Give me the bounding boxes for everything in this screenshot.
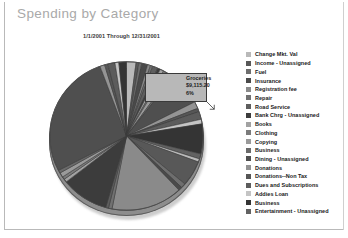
legend-swatch-icon (246, 52, 251, 57)
legend-item-label: Registration fee (255, 86, 297, 92)
legend-item[interactable]: Donations (246, 163, 346, 172)
legend-item-label: Business (255, 147, 280, 153)
legend-item-label: Fuel (255, 69, 266, 75)
legend-item[interactable]: Repair (246, 94, 346, 103)
tooltip-category: Groceries (186, 75, 211, 82)
legend-item-label: Road Service (255, 104, 290, 110)
callout-leader-line (206, 101, 215, 110)
tooltip-amount: $9,115.20 (186, 82, 211, 89)
legend-swatch-icon (246, 156, 251, 161)
legend-item-label: Repair (255, 95, 272, 101)
legend-swatch-icon (246, 87, 251, 92)
report-page: Spending by Category 1/1/2001 Through 12… (0, 0, 348, 238)
page-border-bottom (4, 229, 343, 230)
legend-item-label: Bank Chrg - Unassigned (255, 112, 319, 118)
legend-item-label: Donations--Non Tax (255, 173, 307, 179)
page-title: Spending by Category (17, 6, 159, 21)
legend-swatch-icon (246, 139, 251, 144)
report-date-range: 1/1/2001 Through 12/31/2001 (83, 33, 160, 39)
legend-item-label: Dining - Unassigned (255, 156, 309, 162)
legend-item[interactable]: Books (246, 120, 346, 129)
legend-swatch-icon (246, 165, 251, 170)
legend-item-label: Dues and Subscriptions (255, 182, 318, 188)
legend-swatch-icon (246, 174, 251, 179)
legend-swatch-icon (246, 78, 251, 83)
legend-item[interactable]: Registration fee (246, 85, 346, 94)
legend-swatch-icon (246, 95, 251, 100)
legend-swatch-icon (246, 61, 251, 66)
legend-item-label: Books (255, 121, 272, 127)
legend-item-label: Addies Loan (255, 191, 288, 197)
legend-swatch-icon (246, 130, 251, 135)
legend-item[interactable]: Dining - Unassigned (246, 155, 346, 164)
legend-swatch-icon (246, 200, 251, 205)
legend-swatch-icon (246, 209, 251, 214)
legend-swatch-icon (246, 191, 251, 196)
legend-swatch-icon (246, 69, 251, 74)
legend-swatch-icon (246, 183, 251, 188)
page-border-left (4, 2, 5, 230)
legend-swatch-icon (246, 148, 251, 153)
legend-item[interactable]: Addies Loan (246, 190, 346, 199)
legend-item-label: Entertainment - Unassigned (255, 208, 329, 214)
legend-swatch-icon (246, 104, 251, 109)
slice-tooltip-content: Groceries $9,115.20 6% (186, 75, 211, 97)
legend-item[interactable]: Road Service (246, 102, 346, 111)
chart-legend: Change Mkt. ValIncome - UnassignedFuelIn… (246, 50, 346, 216)
legend-item-label: Income - Unassigned (255, 60, 311, 66)
legend-item[interactable]: Insurance (246, 76, 346, 85)
tooltip-percent: 6% (186, 90, 211, 97)
legend-item[interactable]: Income - Unassigned (246, 59, 346, 68)
legend-item-label: Change Mkt. Val (255, 51, 297, 57)
slice-tooltip[interactable]: Groceries $9,115.20 6% (145, 73, 207, 102)
legend-item[interactable]: Entertainment - Unassigned (246, 207, 346, 216)
pie-chart[interactable]: Groceries $9,115.20 6% (40, 50, 220, 225)
legend-item[interactable]: Donations--Non Tax (246, 172, 346, 181)
legend-item-label: Clothing (255, 130, 277, 136)
legend-item-label: Business (255, 200, 280, 206)
legend-item[interactable]: Copying (246, 137, 346, 146)
legend-item-label: Insurance (255, 78, 281, 84)
legend-item[interactable]: Business (246, 198, 346, 207)
legend-item[interactable]: Clothing (246, 128, 346, 137)
legend-item[interactable]: Bank Chrg - Unassigned (246, 111, 346, 120)
legend-item[interactable]: Change Mkt. Val (246, 50, 346, 59)
legend-item-label: Donations (255, 165, 282, 171)
legend-item[interactable]: Fuel (246, 67, 346, 76)
legend-swatch-icon (246, 122, 251, 127)
legend-item[interactable]: Business (246, 146, 346, 155)
legend-item[interactable]: Dues and Subscriptions (246, 181, 346, 190)
legend-item-label: Copying (255, 139, 277, 145)
legend-swatch-icon (246, 113, 251, 118)
